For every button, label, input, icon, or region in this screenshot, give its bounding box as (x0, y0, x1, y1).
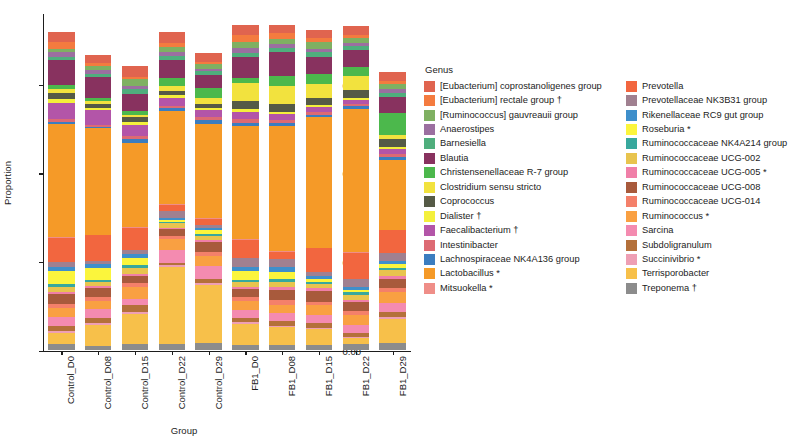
x-tick-mark (61, 351, 62, 355)
bar-segment (122, 66, 149, 77)
bar-segment (122, 125, 149, 136)
bar-segment (269, 252, 296, 259)
legend-item[interactable]: Coprococcus (424, 195, 626, 209)
legend-swatch-icon (424, 95, 435, 106)
legend-item[interactable]: Sarcina (626, 223, 806, 237)
legend-item-label: Clostridium sensu stricto (440, 182, 541, 193)
legend-item[interactable]: Intestinibacter (424, 238, 626, 252)
legend-item[interactable]: Faecalibacterium † (424, 223, 626, 237)
x-tick-mark (393, 351, 394, 355)
legend-item-label: [Ruminococcus] gauvreauii group (440, 110, 578, 121)
bar-segment (379, 319, 406, 343)
stacked-bar[interactable] (122, 66, 149, 350)
legend-item[interactable]: Ruminococcaceae NK4A214 group (626, 137, 806, 151)
x-tick-label: Control_D15 (139, 356, 150, 409)
legend-item[interactable]: Ruminococcaceae UCG-014 (626, 195, 806, 209)
x-tick-mark (356, 351, 357, 355)
legend-swatch-icon (626, 196, 637, 207)
bar-segment (195, 124, 222, 218)
legend-swatch-icon (626, 95, 637, 106)
legend-item-label: Blautia (440, 153, 468, 164)
bar-segment (269, 86, 296, 104)
bar-segment (122, 344, 149, 350)
y-axis-title: Proportion (2, 161, 13, 205)
x-tick-label: Control_D22 (176, 356, 187, 409)
bar-segment (269, 76, 296, 86)
stacked-bar[interactable] (269, 25, 296, 351)
bar-segment (379, 139, 406, 147)
legend-swatch-icon (424, 225, 435, 236)
bar-segment (48, 32, 75, 41)
stacked-bar[interactable] (306, 30, 333, 351)
bar-segment (232, 35, 259, 43)
bar-segment (232, 258, 259, 267)
bar-segment (232, 83, 259, 101)
legend-item[interactable]: Ruminococcaceae UCG-002 (626, 151, 806, 165)
legend-item[interactable]: Dialister † (424, 209, 626, 223)
legend-item[interactable]: Clostridium sensu stricto (424, 180, 626, 194)
legend-item[interactable]: Ruminococcus * (626, 209, 806, 223)
stacked-bar[interactable] (85, 55, 112, 351)
bar-segment (85, 309, 112, 318)
stacked-bar[interactable] (232, 25, 259, 351)
legend-item[interactable]: Rikenellaceae RC9 gut group (626, 108, 806, 122)
legend-item[interactable]: Prevotella (626, 79, 806, 93)
stacked-bar[interactable] (195, 53, 222, 350)
legend-item-label: Faecalibacterium † (440, 225, 519, 236)
legend-item[interactable]: Ruminococcaceae UCG-008 (626, 180, 806, 194)
legend-item[interactable]: Blautia (424, 151, 626, 165)
stacked-bar[interactable] (379, 72, 406, 350)
legend-item-label: Ruminococcus * (642, 211, 709, 222)
x-tick-mark (282, 351, 283, 355)
legend-item[interactable]: Succinivibrio * (626, 252, 806, 266)
legend-swatch-icon (626, 254, 637, 265)
stacked-bar[interactable] (159, 32, 186, 350)
legend-item[interactable]: Anaerostipes (424, 122, 626, 136)
legend-swatch-icon (424, 182, 435, 193)
bar-segment (343, 50, 370, 67)
bar-segment (343, 325, 370, 334)
stacked-bar[interactable] (343, 26, 370, 350)
legend-column-2: PrevotellaPrevotellaceae NK3B31 groupRik… (626, 79, 806, 296)
legend-item[interactable]: [Ruminococcus] gauvreauii group (424, 108, 626, 122)
legend-item[interactable]: [Eubacterium] coprostanoligenes group (424, 79, 626, 93)
legend-swatch-icon (626, 167, 637, 178)
bar-segment (232, 25, 259, 35)
legend-item[interactable]: Roseburia * (626, 122, 806, 136)
legend-item[interactable]: Prevotellaceae NK3B31 group (626, 93, 806, 107)
bar-segment (306, 98, 333, 105)
legend-swatch-icon (424, 283, 435, 294)
y-axis-line (43, 14, 44, 352)
legend-item[interactable]: Mitsuokella * (424, 281, 626, 295)
bar-segment (343, 67, 370, 76)
legend-title: Genus (425, 64, 806, 75)
bar-segment (306, 42, 333, 49)
legend-swatch-icon (424, 167, 435, 178)
legend-item[interactable]: Treponema † (626, 281, 806, 295)
legend-item[interactable]: Barnesiella (424, 137, 626, 151)
legend-item[interactable]: [Eubacterium] rectale group † (424, 93, 626, 107)
bar-segment (379, 230, 406, 253)
bar-segment (48, 271, 75, 284)
legend-swatch-icon (424, 268, 435, 279)
x-tick-mark (209, 351, 210, 355)
bar-segment (48, 308, 75, 317)
legend-column-1: [Eubacterium] coprostanoligenes group[Eu… (424, 79, 626, 296)
legend-item-label: Terrisporobacter (642, 268, 709, 279)
legend-item[interactable]: Lactobacillus * (424, 267, 626, 281)
legend-item[interactable]: Christensenellaceae R-7 group (424, 166, 626, 180)
legend-item[interactable]: Subdoligranulum (626, 238, 806, 252)
legend-item[interactable]: Lachnospiraceae NK4A136 group (424, 252, 626, 266)
bar-segment (269, 345, 296, 351)
bar-segment (269, 272, 296, 279)
legend-item-label: Barnesiella (440, 138, 486, 149)
legend-item-label: [Eubacterium] coprostanoligenes group (440, 81, 602, 92)
legend-item[interactable]: Terrisporobacter (626, 267, 806, 281)
legend-item-label: Sarcina (642, 225, 674, 236)
bar-segment (48, 238, 75, 262)
bar-segment (195, 285, 222, 343)
legend-item[interactable]: Ruminococcaceae UCG-005 * (626, 166, 806, 180)
stacked-bar[interactable] (48, 32, 75, 350)
x-axis-title: Group (171, 425, 197, 436)
bar-segment (232, 301, 259, 310)
